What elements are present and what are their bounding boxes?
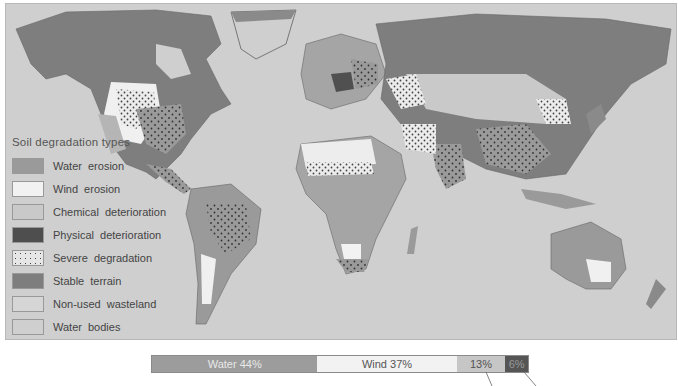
- leader-lines: [480, 372, 540, 386]
- legend-label: Physical deterioration: [53, 229, 161, 241]
- legend-label: Chemical deterioration: [53, 206, 166, 218]
- legend-label: Wind erosion: [53, 183, 120, 195]
- legend-item-wind-erosion: Wind erosion: [12, 177, 202, 200]
- legend-item-water-bodies: Water bodies: [12, 315, 202, 338]
- legend-item-chemical-deterioration: Chemical deterioration: [12, 200, 202, 223]
- legend-item-non-used-wasteland: Non-used wasteland: [12, 292, 202, 315]
- legend-swatch: [12, 319, 44, 335]
- world-soil-degradation-map: Soil degradation types Water erosion Win…: [5, 3, 677, 340]
- legend-item-water-erosion: Water erosion: [12, 154, 202, 177]
- legend-label: Water bodies: [53, 321, 120, 333]
- legend-label: Water erosion: [53, 160, 124, 172]
- legend-label: Severe degradation: [53, 252, 152, 264]
- legend-item-stable-terrain: Stable terrain: [12, 269, 202, 292]
- legend-swatch: [12, 181, 44, 197]
- legend-title: Soil degradation types: [12, 136, 202, 148]
- segment-water: Water 44%: [152, 356, 317, 372]
- legend-swatch: [12, 296, 44, 312]
- legend-label: Stable terrain: [53, 275, 121, 287]
- degradation-share-bar: Water 44% Wind 37% 13% 6%: [151, 355, 529, 373]
- segment-wind: Wind 37%: [317, 356, 456, 372]
- segment-physical: 6%: [505, 356, 528, 372]
- legend-item-physical-deterioration: Physical deterioration: [12, 223, 202, 246]
- legend-swatch: [12, 158, 44, 174]
- legend-swatch: [12, 273, 44, 289]
- legend-item-severe-degradation: Severe degradation: [12, 246, 202, 269]
- legend-swatch: [12, 250, 44, 266]
- legend-swatch: [12, 204, 44, 220]
- legend: Soil degradation types Water erosion Win…: [12, 136, 202, 338]
- segment-chemical: 13%: [457, 356, 506, 372]
- legend-label: Non-used wasteland: [53, 298, 156, 310]
- legend-swatch: [12, 227, 44, 243]
